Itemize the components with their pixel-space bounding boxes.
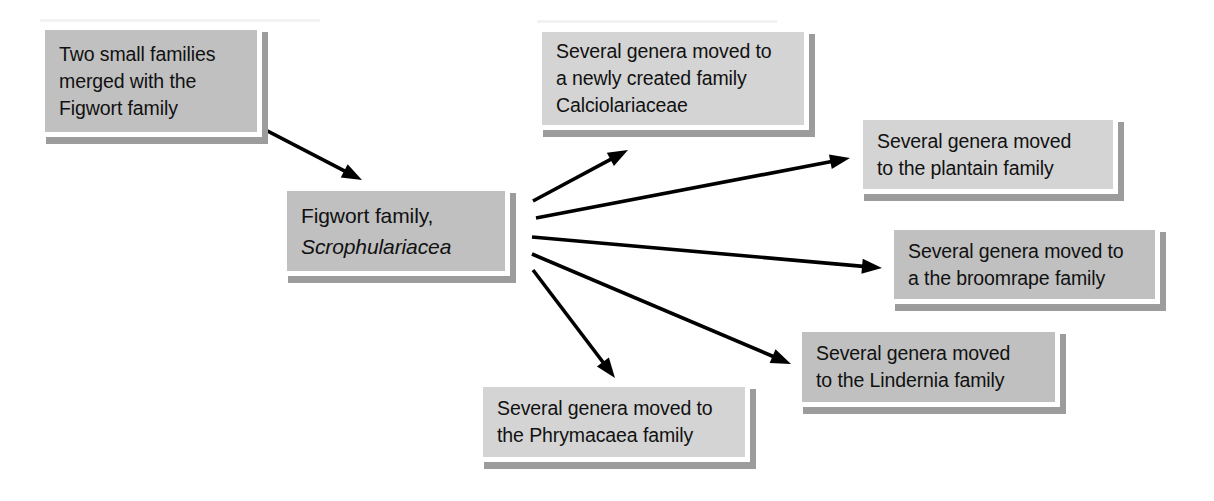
node-text-line: Several genera moved to xyxy=(497,395,733,422)
arrow-head xyxy=(341,164,362,180)
node-phrymacaea-family: Several genera moved tothe Phrymacaea fa… xyxy=(478,382,750,462)
arrow-shaft xyxy=(533,158,614,201)
arrow-figwort-to-calciolariaceae xyxy=(533,150,628,201)
node-figwort-family: Figwort family,Scrophulariacea xyxy=(282,186,510,276)
node-text-line: Several genera moved to xyxy=(556,38,792,65)
arrow-head xyxy=(770,349,791,364)
arrow-shaft xyxy=(533,270,605,365)
node-text-line: Several genera moved xyxy=(816,340,1043,367)
node-text-line: to the Lindernia family xyxy=(816,367,1043,394)
node-face: Figwort family,Scrophulariacea xyxy=(282,186,510,276)
node-text-line: the Phrymacaea family xyxy=(497,422,733,449)
node-text-line: a newly created family xyxy=(556,65,792,92)
node-text-line: Calciolariaceae xyxy=(556,92,792,119)
node-lindernia-family: Several genera movedto the Lindernia fam… xyxy=(797,327,1060,407)
node-two-small-families: Two small familiesmerged with theFigwort… xyxy=(40,25,262,137)
arrow-figwort-to-broomrape xyxy=(532,237,882,274)
diagram-canvas: Two small familiesmerged with theFigwort… xyxy=(0,0,1214,501)
arrow-figwort-to-phrymacaea xyxy=(533,270,615,378)
node-face: Several genera moved toa newly created f… xyxy=(537,27,809,130)
arrow-shaft xyxy=(532,237,866,267)
node-text-line: merged with the xyxy=(59,68,245,95)
node-calciolariaceae: Several genera moved toa newly created f… xyxy=(537,27,809,130)
arrow-figwort-to-plantain xyxy=(536,154,850,218)
node-text-line: Two small families xyxy=(59,41,245,68)
arrow-shaft xyxy=(536,161,834,218)
node-face: Two small familiesmerged with theFigwort… xyxy=(40,25,262,137)
node-text-line: Scrophulariacea xyxy=(301,231,493,262)
node-face: Several genera movedto the Lindernia fam… xyxy=(797,327,1060,407)
arrow-head xyxy=(607,150,628,166)
node-broomrape-family: Several genera moved toa the broomrape f… xyxy=(889,225,1160,304)
node-text-line: Several genera moved to xyxy=(908,238,1143,265)
node-plantain-family: Several genera movedto the plantain fami… xyxy=(858,115,1118,194)
node-text-line: to the plantain family xyxy=(877,155,1101,182)
arrow-head xyxy=(861,259,882,274)
node-text-line: a the broomrape family xyxy=(908,265,1143,292)
arrow-figwort-to-lindernia xyxy=(532,254,791,364)
node-face: Several genera movedto the plantain fami… xyxy=(858,115,1118,194)
node-text-line: Several genera moved xyxy=(877,128,1101,155)
node-text-line: Figwort family xyxy=(59,95,245,122)
node-face: Several genera moved toa the broomrape f… xyxy=(889,225,1160,304)
arrow-head xyxy=(829,154,850,169)
node-face: Several genera moved tothe Phrymacaea fa… xyxy=(478,382,750,462)
arrow-shaft xyxy=(532,254,776,358)
node-text-line: Figwort family, xyxy=(301,200,493,231)
